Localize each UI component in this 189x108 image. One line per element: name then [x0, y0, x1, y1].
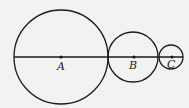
label-b: B: [128, 59, 137, 72]
tangent-circles-diagram: A B C: [0, 0, 189, 108]
point-a: [59, 55, 62, 58]
label-a: A: [56, 60, 65, 73]
label-c: C: [167, 58, 176, 71]
